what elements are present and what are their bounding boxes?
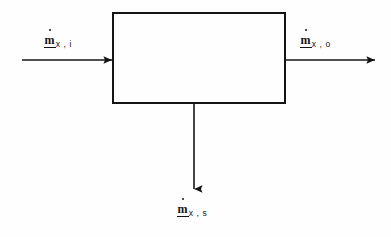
diagram-canvas: m x , i m x , o m x , s [0, 0, 391, 237]
inlet-symbol-group: m [44, 34, 55, 46]
inlet-flow-label: m x , i [44, 34, 71, 46]
mass-flow-symbol: m [177, 203, 188, 215]
inlet-subscript: x , i [56, 40, 72, 49]
vector-underline-icon [300, 47, 312, 48]
vector-underline-icon [44, 47, 56, 48]
sink-symbol-group: m [177, 203, 188, 215]
overdot-accent-icon [182, 198, 184, 200]
overdot-accent-icon [305, 29, 307, 31]
mass-flow-symbol: m [44, 34, 55, 46]
overdot-accent-icon [49, 29, 51, 31]
vector-underline-icon [177, 216, 189, 217]
control-volume-box [113, 13, 285, 103]
outlet-subscript: x , o [312, 40, 331, 49]
sink-subscript: x , s [189, 209, 208, 218]
outlet-flow-label: m x , o [300, 34, 330, 46]
mass-flow-symbol: m [300, 34, 311, 46]
sink-flow-label: m x , s [177, 203, 207, 215]
outlet-symbol-group: m [300, 34, 311, 46]
